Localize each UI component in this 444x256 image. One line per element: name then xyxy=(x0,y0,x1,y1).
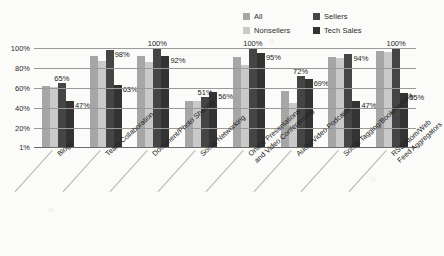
bar-value-label: 65% xyxy=(54,75,69,84)
bar-all xyxy=(328,57,336,148)
y-axis-tick-label: 60% xyxy=(15,84,30,93)
bar-all xyxy=(233,57,241,148)
grid-line xyxy=(34,48,416,49)
bar-nonsellers xyxy=(241,65,249,148)
bar-nonsellers xyxy=(336,58,344,148)
y-axis-tick-label: 40% xyxy=(15,104,30,113)
x-label-leader-line xyxy=(205,150,243,192)
legend-swatch-icon xyxy=(243,27,250,34)
chart-legend: AllSellersNonsellersTech Sales xyxy=(243,9,362,37)
grid-line xyxy=(34,108,416,109)
bar-value-label: 100% xyxy=(148,40,167,49)
grid-line xyxy=(34,68,416,69)
legend-label: All xyxy=(254,12,263,21)
y-axis-tick-label: 20% xyxy=(15,124,30,133)
bar-all xyxy=(90,56,98,148)
bar-all xyxy=(376,51,384,148)
legend-label: Tech Sales xyxy=(324,26,362,35)
x-label-leader-line xyxy=(110,150,148,192)
bar-nonsellers xyxy=(98,61,106,148)
legend-swatch-icon xyxy=(313,27,320,34)
legend-item-sellers: Sellers xyxy=(313,12,362,21)
bar-sellers: 100% xyxy=(249,48,257,148)
legend-label: Sellers xyxy=(324,12,348,21)
y-axis-tick-label: 100% xyxy=(11,44,30,53)
x-label-leader-line xyxy=(14,150,52,192)
bar-nonsellers xyxy=(50,87,58,148)
x-label-leader-line xyxy=(349,150,387,192)
bar-value-label: 100% xyxy=(387,40,406,49)
legend-label: Nonsellers xyxy=(254,26,290,35)
bar-nonsellers xyxy=(384,52,392,148)
bar-group: 65%47% xyxy=(34,48,82,148)
bar-all xyxy=(42,86,50,148)
x-label-leader-line xyxy=(158,150,196,192)
y-axis-tick-label: 1% xyxy=(19,143,30,152)
x-label-leader-line xyxy=(301,150,339,192)
legend-item-tech-sales: Tech Sales xyxy=(313,26,362,35)
legend-item-nonsellers: Nonsellers xyxy=(243,26,307,35)
grid-line xyxy=(34,88,416,89)
bar-sellers: 100% xyxy=(153,48,161,148)
y-axis-tick-label: 80% xyxy=(15,64,30,73)
bar-value-label: 100% xyxy=(243,40,262,49)
bar-all xyxy=(137,56,145,148)
x-label-leader-line xyxy=(62,150,100,192)
legend-swatch-icon xyxy=(243,13,250,20)
bar-nonsellers xyxy=(145,62,153,148)
legend-item-all: All xyxy=(243,12,307,21)
legend-swatch-icon xyxy=(313,13,320,20)
x-axis-labels: BlogsTeam CollaborationDocument/Photo Sh… xyxy=(34,150,416,254)
bar-sellers: 98% xyxy=(106,50,114,148)
bar-value-label: 94% xyxy=(352,55,368,64)
bar-sellers: 65% xyxy=(58,83,66,148)
bar-value-label: 98% xyxy=(114,51,130,60)
